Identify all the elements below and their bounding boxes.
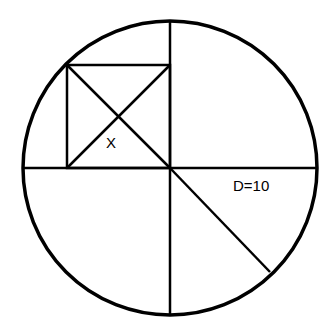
diameter-label: D=10 [233,177,269,194]
square-label-x: X [106,134,116,151]
geometry-diagram: X D=10 [0,0,327,331]
